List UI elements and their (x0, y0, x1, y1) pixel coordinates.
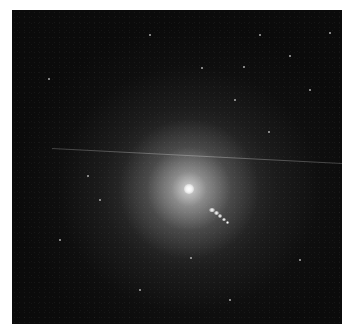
galaxy-core (184, 184, 194, 194)
star-point (329, 32, 331, 34)
star-point (149, 34, 151, 36)
star-point (201, 67, 203, 69)
sky-noise (12, 10, 342, 324)
star-point (268, 131, 270, 133)
star-point (99, 199, 101, 201)
star-point (87, 175, 89, 177)
jet-knot (226, 221, 229, 224)
galaxy-image (12, 10, 342, 324)
star-point (48, 78, 50, 80)
star-point (289, 55, 291, 57)
star-point (229, 299, 231, 301)
jet-knot (222, 218, 226, 221)
star-point (190, 257, 192, 259)
star-point (259, 34, 261, 36)
jet-knot (218, 214, 222, 218)
star-point (59, 239, 61, 241)
star-point (309, 89, 311, 91)
star-point (234, 99, 236, 101)
star-point (139, 289, 141, 291)
star-point (243, 66, 245, 68)
star-point (299, 259, 301, 261)
